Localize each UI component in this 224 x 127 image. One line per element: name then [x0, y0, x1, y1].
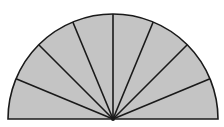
center-point [111, 117, 115, 121]
semicircle-diagram [0, 0, 224, 127]
